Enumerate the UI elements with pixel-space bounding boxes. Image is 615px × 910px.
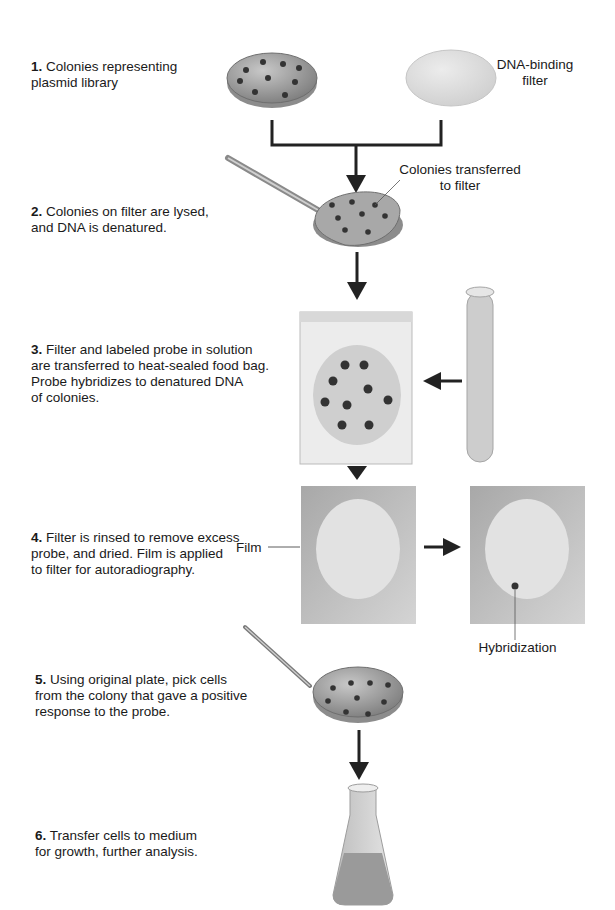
petri-plate-icon	[227, 53, 317, 108]
step-number: 6.	[35, 828, 46, 843]
probe-test-tube-icon	[466, 287, 494, 462]
forceps-icon	[228, 158, 318, 210]
step-number: 5.	[35, 672, 46, 687]
autoradiograph-icon	[470, 486, 585, 640]
step-1-text: 1. Colonies representingplasmid library	[31, 59, 177, 91]
colonies-transferred-label: Colonies transferredto filter	[390, 162, 530, 194]
step-number: 3.	[31, 342, 42, 357]
step-4-text: 4. Filter is rinsed to remove excessprob…	[31, 530, 240, 578]
erlenmeyer-flask-icon	[333, 784, 393, 905]
original-plate-icon	[313, 667, 403, 723]
film-label: Film	[236, 540, 268, 556]
step-2-text: 2. Colonies on filter are lysed,and DNA …	[31, 204, 209, 236]
step-6-text: 6. Transfer cells to mediumfor growth, f…	[35, 828, 198, 860]
step-number: 2.	[31, 204, 42, 219]
dna-binding-filter-label: DNA-bindingfilter	[486, 57, 584, 89]
diagram-artwork	[0, 0, 615, 910]
step-number: 4.	[31, 530, 42, 545]
hybridization-label: Hybridization	[470, 640, 565, 656]
film-on-filter-icon	[301, 486, 416, 624]
pipette-icon	[245, 627, 310, 686]
step-number: 1.	[31, 59, 42, 74]
sealed-bag-icon	[300, 312, 412, 464]
dna-binding-filter-icon	[406, 50, 496, 106]
step-5-text: 5. Using original plate, pick cellsfrom …	[35, 672, 247, 720]
step-3-text: 3. Filter and labeled probe in solutiona…	[31, 342, 269, 406]
